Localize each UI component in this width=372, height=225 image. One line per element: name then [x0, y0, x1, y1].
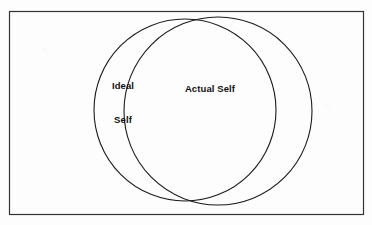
label-actual-self-line1: Actual Self: [172, 83, 248, 94]
label-ideal-self-line1: Ideal: [102, 80, 144, 91]
label-ideal-self: Ideal Self: [102, 58, 144, 148]
label-ideal-self-line2: Self: [102, 114, 144, 125]
label-actual-self: Actual Self: [172, 61, 248, 117]
venn-diagram-figure: Ideal Self Actual Self: [0, 0, 372, 225]
